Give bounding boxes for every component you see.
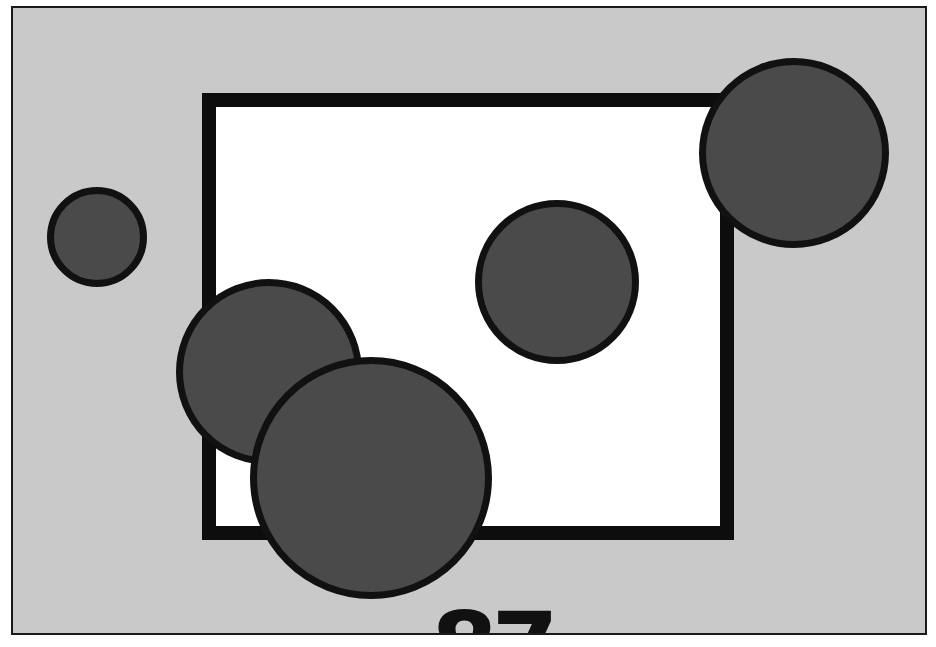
figure-frame: 87: [11, 6, 927, 635]
page-number-label: 87: [431, 600, 553, 635]
circle-small-left: [47, 187, 147, 287]
circle-big-bottom: [250, 357, 492, 599]
circle-middle: [475, 200, 639, 364]
circle-top-right: [699, 58, 889, 248]
